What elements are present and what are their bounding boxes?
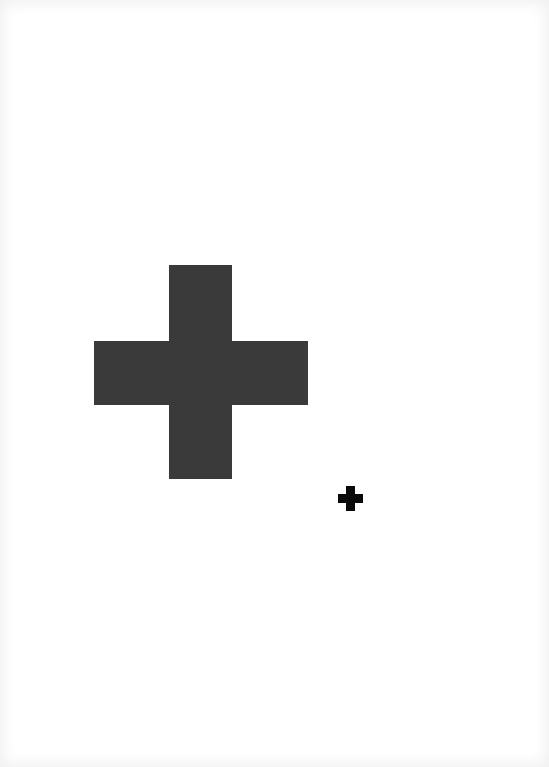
large-plus-horizontal-bar xyxy=(94,341,308,405)
small-plus-horizontal-bar xyxy=(338,494,363,503)
document-page xyxy=(0,0,549,767)
